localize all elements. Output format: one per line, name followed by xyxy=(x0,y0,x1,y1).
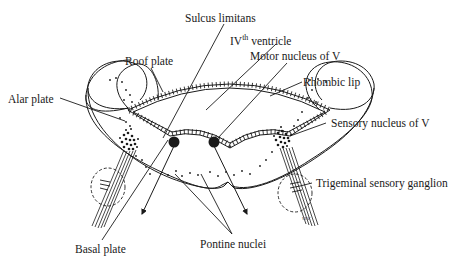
label-pontine-nuclei: Pontine nuclei xyxy=(200,239,266,251)
label-roof-plate: Roof plate xyxy=(125,56,173,68)
leader-alar-plate xyxy=(60,98,125,121)
artist-signature: vnc xyxy=(302,215,310,221)
leader-motor-nucleus xyxy=(218,63,287,138)
label-ivth-suffix: ventricle xyxy=(248,35,291,47)
label-ivth-ventricle: IVth ventricle xyxy=(230,34,291,48)
leader-trigeminal-ganglion xyxy=(300,183,312,186)
label-rhombic-lip: Rhombic lip xyxy=(303,77,360,89)
label-sensory-nucleus: Sensory nucleus of V xyxy=(331,118,430,130)
label-alar-plate: Alar plate xyxy=(8,94,54,106)
ventricle-floor-hatch xyxy=(130,111,328,145)
leader-pontine-nuclei-left xyxy=(175,174,232,234)
label-basal-plate: Basal plate xyxy=(75,244,126,256)
leader-basal-plate xyxy=(102,140,168,240)
motor-nucleus-right xyxy=(209,137,220,148)
motor-axon-right xyxy=(214,146,247,214)
sensory-nucleus-left-stipple xyxy=(119,128,139,150)
roof-plate-band-inner xyxy=(133,88,325,112)
leader-sulcus-limitans xyxy=(163,24,224,138)
left-lobe-outline xyxy=(88,61,147,109)
motor-axon-left xyxy=(142,146,174,214)
label-sulcus-limitans: Sulcus limitans xyxy=(185,13,256,25)
diagram-figure: Sulcus limitans IVth ventricle Roof plat… xyxy=(0,0,459,262)
label-trigeminal-ganglion: Trigeminal sensory ganglion xyxy=(316,178,448,190)
label-ivth-prefix: IV xyxy=(230,35,242,47)
pons-base-outline xyxy=(88,88,374,189)
leader-roof-plate xyxy=(151,68,163,92)
leader-sensory-nucleus xyxy=(290,123,326,136)
trigeminal-fibers-left xyxy=(92,150,136,228)
motor-nucleus-left xyxy=(169,137,180,148)
label-motor-nucleus: Motor nucleus of V xyxy=(250,51,340,63)
